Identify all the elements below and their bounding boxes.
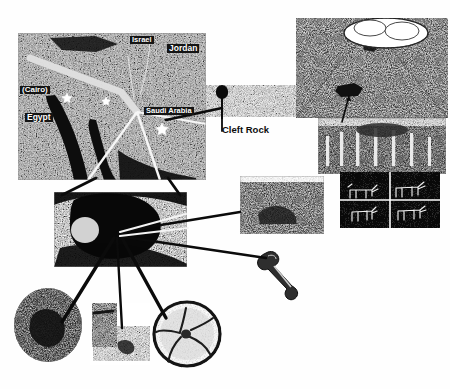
connector-mountain-to-columns [342,96,349,122]
map-label-jordan: Jordan [167,44,199,53]
standing-pillar [90,303,150,365]
cleft-rock-ridge [206,86,336,117]
connector-map-to-summit-right [168,178,180,195]
figure-artwork [0,0,450,389]
split-boulder [14,288,82,362]
rocky-outcrop [240,176,324,234]
connector-lines [62,96,351,328]
map-label-egypt: Egypt [25,113,53,122]
connector-summit-to-pillar [117,238,122,328]
connector-summit-to-outcrop [118,212,240,232]
map-label-israel: Israel [130,36,154,44]
figure-canvas: Israel Jordan (Cairo) Egypt Saudi Arabia… [0,0,450,389]
cleft-rock-label: Cleft Rock [222,124,269,135]
circular-altar [152,300,222,368]
connector-summit-to-bone [118,236,266,258]
connector-summit-to-round-altar [122,238,166,318]
bovine-petroglyphs [340,172,440,228]
blackened-summit [54,192,187,267]
stone-columns-altar [318,118,446,174]
connector-map-to-summit-left [62,178,96,195]
cleft-rock-pin [216,85,228,119]
bone-artifact [258,252,298,300]
map-label-cairo: (Cairo) [20,86,50,94]
smoking-mountain [296,18,448,118]
connector-summit-to-boulder [62,238,114,322]
map-label-saudi-arabia: Saudi Arabia [144,107,194,115]
